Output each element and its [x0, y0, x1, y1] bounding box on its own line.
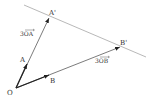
- vector-diagram: O A B A' B' 3OA 3OB: [0, 0, 150, 97]
- label-3ob-group: 3OB: [95, 56, 110, 64]
- label-o: O: [7, 89, 13, 97]
- label-b: B: [50, 77, 55, 85]
- label-a-prime: A': [48, 9, 56, 17]
- label-a: A: [19, 56, 26, 64]
- label-3oa-group: 3OA: [20, 29, 35, 37]
- label-3oa: 3OA: [20, 30, 34, 37]
- line-a-prime-b-prime: [24, 5, 146, 57]
- label-b-prime: B': [120, 39, 127, 47]
- label-3ob: 3OB: [95, 57, 109, 64]
